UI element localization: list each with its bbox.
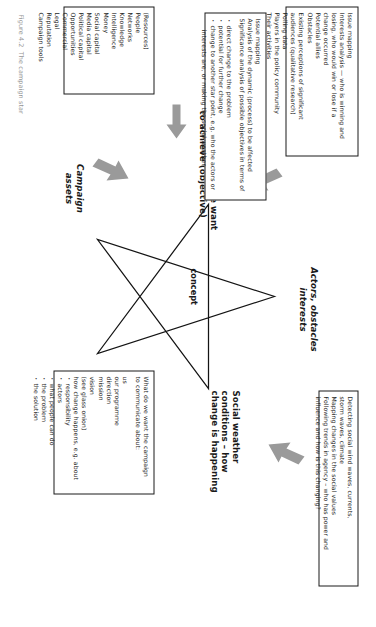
- box-line: interests are, or making the social weat…: [199, 18, 207, 194]
- box-ambition-objective: Issue mapping Analysis of the dynamic (p…: [204, 12, 266, 200]
- box-communication-desires: What do we want the campaign to communic…: [53, 370, 154, 494]
- box-line-list: Detecting social wind waves, currents, s…: [313, 396, 353, 580]
- box-line: Commercial: [60, 12, 68, 88]
- box-line: Following trends in agency – who has pow…: [321, 396, 329, 580]
- box-line-list: Issue mapping Analysis of the dynamic (p…: [199, 18, 261, 194]
- box-line: Polling data: [280, 12, 288, 150]
- box-line: Networks: [125, 12, 133, 88]
- box-line: us: [120, 376, 128, 488]
- box-bullet: direct change to the problem: [224, 18, 232, 194]
- diagram-page: concept Ambition: what we want to achiev…: [0, 0, 376, 627]
- box-line: to communicate about:: [133, 376, 141, 488]
- box-line: mission: [95, 376, 103, 488]
- box-line-list: Issue mapping Interests analysis — who i…: [264, 12, 353, 150]
- box-line: influence and how is this changing?: [313, 396, 321, 580]
- box-line: Knowledge: [117, 12, 125, 88]
- box-line-spacer: [232, 18, 237, 194]
- box-line: People: [133, 12, 141, 88]
- arrow-ambition-to-star: [166, 104, 186, 138]
- box-line: Analysis of the dynamic (process) to be …: [245, 18, 253, 194]
- box-line: how change happens, e.g. about: [71, 376, 79, 488]
- box-line: Detecting social wind waves, currents,: [345, 396, 353, 580]
- box-bullet: what people can do: [47, 376, 55, 488]
- box-line: Significance analysis of possible object…: [237, 18, 245, 194]
- box-line: Opportunities: [68, 12, 76, 88]
- box-line: Obstacles: [304, 12, 312, 150]
- box-line: What do we want the campaign: [141, 376, 149, 488]
- box-line: Issue mapping: [253, 18, 261, 194]
- box-line-list: What do we want the campaign to communic…: [31, 376, 149, 488]
- box-line: change occurred: [321, 12, 329, 150]
- box-bullet: potential for further change: [216, 18, 224, 194]
- box-line: Media capital: [84, 12, 92, 88]
- box-line: Mapping changes in the social values: [329, 396, 337, 580]
- box-line: Money: [100, 12, 108, 88]
- scanned-page-frame: concept Ambition: what we want to achiev…: [0, 0, 376, 627]
- box-bullet: actors: [55, 376, 63, 488]
- box-line-spacer: [128, 376, 133, 488]
- box-line: Campaign tools: [36, 12, 44, 88]
- box-social-weather: Detecting social wind waves, currents, s…: [318, 390, 358, 586]
- box-line: Existing perceptions of significant: [296, 12, 304, 150]
- box-bullet: change to another star point, e.g. who t…: [207, 18, 215, 194]
- arrow-social-weather-to-star: [270, 436, 304, 466]
- box-line: Issue mapping: [345, 12, 353, 150]
- box-line: (Resources): [141, 12, 149, 88]
- box-line: Social capital: [92, 12, 100, 88]
- arrow-campaign-assets-to-star: [92, 156, 128, 186]
- box-line: audiences (qualitative research): [288, 12, 296, 150]
- box-line: storm waves, climate: [337, 396, 345, 580]
- star-point-label-actors: Actors, obstacles interests: [297, 266, 318, 352]
- star-center-label: concept: [188, 268, 198, 305]
- box-bullet: the solution: [31, 376, 39, 488]
- box-line-list: (Resources) People Networks Knowledge In…: [36, 12, 149, 88]
- box-line: direction: [104, 376, 112, 488]
- box-line: Interests analysis — who is winning and: [337, 12, 345, 150]
- box-line: Legal: [52, 12, 60, 88]
- box-line: Potential allies: [313, 12, 321, 150]
- box-bullet: responsibility: [63, 376, 71, 488]
- box-line: (see glass onion): [79, 376, 87, 488]
- box-line: Reputation: [44, 12, 52, 88]
- box-line: Intelligence: [109, 12, 117, 88]
- box-bullet: the problem: [39, 376, 47, 488]
- star-point-label-campaign-assets: Campaign assets: [63, 152, 84, 224]
- box-actors-interests: Issue mapping Interests analysis — who i…: [285, 6, 358, 156]
- box-line: losing, who would win or lose if a: [329, 12, 337, 150]
- box-line: our programme: [112, 376, 120, 488]
- star-point-label-social-weather: Social weather conditions – how change i…: [208, 390, 240, 490]
- box-line: Political capital: [76, 12, 84, 88]
- box-line: Players in the policy community: [272, 12, 280, 150]
- box-campaign-assets: (Resources) People Networks Knowledge In…: [63, 6, 154, 94]
- figure-caption: Figure 4.2 The campaign star: [16, 14, 24, 113]
- box-line: vision: [87, 376, 95, 488]
- campaign-star-shape: [90, 196, 280, 396]
